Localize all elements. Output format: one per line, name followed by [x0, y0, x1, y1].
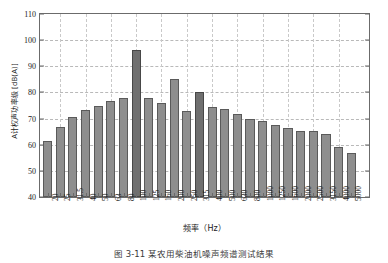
x-axis-tick-label: 250	[190, 190, 199, 201]
bar	[157, 103, 166, 197]
x-axis-tick-label: 50	[101, 194, 110, 202]
x-axis-tick-mark	[60, 193, 61, 197]
x-axis-tick-mark	[326, 193, 327, 197]
figure-caption: 图 3-11 某农用柴油机噪声频谱测试结果	[0, 247, 388, 263]
plot-area: 405060708090100110 202531.54050638010012…	[39, 13, 370, 198]
bar	[106, 101, 115, 197]
x-axis-tick-mark	[149, 193, 150, 197]
bar	[170, 79, 179, 197]
x-axis-tick-label: 4000	[342, 186, 351, 201]
x-axis-tick-label: 630	[240, 190, 249, 201]
x-axis-tick-mark	[313, 193, 314, 197]
y-axis-title: A计权声功率级 [dB(A)]	[9, 31, 19, 171]
x-axis-tick-mark	[187, 193, 188, 197]
x-axis-tick-mark	[98, 193, 99, 197]
x-axis-tick-label: 2000	[304, 186, 313, 201]
bar	[182, 111, 191, 197]
x-axis-tick-mark	[73, 193, 74, 197]
plot-inner: 405060708090100110 202531.54050638010012…	[40, 14, 369, 197]
x-axis-tick-label: 20	[51, 194, 60, 202]
x-axis-tick-mark	[199, 193, 200, 197]
x-axis-tick-mark	[48, 193, 49, 197]
bar-chart: A计权声功率级 [dB(A)] 405060708090100110 20253…	[0, 0, 388, 240]
bar	[208, 107, 217, 197]
x-axis-tick-label: 63	[114, 194, 123, 202]
bar	[132, 50, 141, 197]
x-axis-tick-label: 40	[89, 194, 98, 202]
y-axis-tick-label: 60	[28, 140, 36, 149]
bar-series	[40, 14, 369, 197]
y-axis-tick-label: 80	[28, 88, 36, 97]
x-axis-tick-mark	[124, 193, 125, 197]
x-axis-title: 频率（Hz）	[39, 222, 370, 233]
x-axis-tick-label: 100	[139, 190, 148, 201]
bar	[68, 117, 77, 197]
y-axis-tick-label: 90	[28, 62, 36, 71]
bar	[81, 110, 90, 197]
x-axis-tick-mark	[237, 193, 238, 197]
x-axis-tick-label: 25	[63, 194, 72, 202]
x-axis-tick-mark	[111, 193, 112, 197]
x-axis-tick-label: 400	[215, 190, 224, 201]
y-axis-tick-label: 100	[24, 36, 36, 45]
y-axis-tick-label: 40	[28, 193, 36, 202]
x-axis-tick-mark	[174, 193, 175, 197]
x-axis-tick-label: 5000	[354, 186, 363, 201]
bar	[195, 92, 204, 197]
x-axis-tick-mark	[301, 193, 302, 197]
x-axis-tick-label: 500	[228, 190, 237, 201]
x-axis-tick-mark	[351, 193, 352, 197]
bar	[144, 98, 153, 197]
x-axis-tick-label: 1000	[266, 186, 275, 201]
x-axis-tick-label: 200	[177, 190, 186, 201]
x-axis-tick-mark	[136, 193, 137, 197]
x-axis-tick-mark	[275, 193, 276, 197]
bar	[119, 98, 128, 197]
bar	[56, 127, 65, 197]
x-axis-tick-mark	[250, 193, 251, 197]
bar	[43, 141, 52, 197]
bar	[245, 119, 254, 197]
figure-root: A计权声功率级 [dB(A)] 405060708090100110 20253…	[0, 0, 388, 263]
x-axis-tick-label: 3150	[329, 186, 338, 201]
x-axis-tick-mark	[339, 193, 340, 197]
bar	[220, 109, 229, 197]
x-axis-tick-label: 125	[152, 190, 161, 201]
x-axis-tick-mark	[212, 193, 213, 197]
y-axis-tick-label: 70	[28, 114, 36, 123]
x-axis-tick-mark	[161, 193, 162, 197]
y-axis-tick-label: 50	[28, 166, 36, 175]
y-axis-tick-label: 110	[24, 10, 36, 19]
x-axis-tick-label: 160	[164, 190, 173, 201]
x-axis-tick-label: 315	[202, 190, 211, 201]
bar	[94, 106, 103, 197]
x-axis-tick-label: 1600	[291, 186, 300, 201]
x-axis-tick-mark	[86, 193, 87, 197]
x-axis-tick-label: 80	[127, 194, 136, 202]
x-axis-tick-mark	[263, 193, 264, 197]
x-axis-tick-mark	[225, 193, 226, 197]
x-axis-tick-label: 800	[253, 190, 262, 201]
x-axis-tick-label: 1250	[278, 186, 287, 201]
bar	[233, 114, 242, 197]
x-axis-tick-label: 2500	[316, 186, 325, 201]
x-axis-tick-label: 31.5	[76, 188, 85, 201]
x-axis-tick-mark	[288, 193, 289, 197]
